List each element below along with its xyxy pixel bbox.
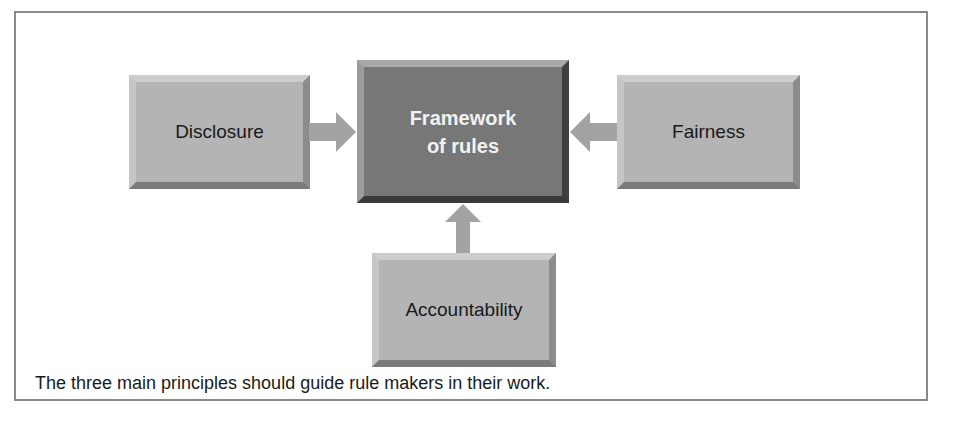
framework-label-line2: of rules [410,132,517,160]
fairness-box: Fairness [617,75,800,189]
fairness-label: Fairness [672,121,745,143]
framework-label-line1: Framework [410,104,517,132]
accountability-label: Accountability [405,299,522,321]
framework-of-rules-box: Framework of rules [357,60,569,203]
disclosure-box: Disclosure [129,75,310,189]
arrow-right-icon [309,112,357,152]
disclosure-label: Disclosure [175,121,264,143]
accountability-box: Accountability [372,253,556,367]
arrow-left-icon [569,112,617,152]
arrow-up-icon [444,203,482,254]
figure-caption: The three main principles should guide r… [35,373,550,394]
